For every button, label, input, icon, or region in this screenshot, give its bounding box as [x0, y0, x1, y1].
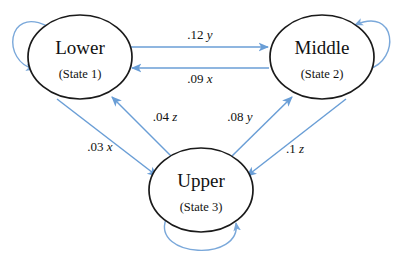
edge-label-upper-to-lower-var: z	[171, 109, 177, 124]
edge-lower-to-upper	[57, 99, 157, 176]
node-state1-subtitle: (State 1)	[59, 67, 102, 81]
edge-label-middle-to-lower-var: x	[206, 71, 213, 86]
edge-label-upper-to-middle-var: y	[245, 109, 253, 124]
edge-middle-to-upper	[247, 99, 346, 176]
diagram-canvas: Lower (State 1) Middle (State 2) Upper (…	[0, 0, 402, 261]
edge-label-middle-to-upper-var: z	[298, 141, 304, 156]
node-state3-subtitle: (State 3)	[180, 200, 223, 214]
edge-label-middle-to-lower: .09 x	[187, 71, 213, 86]
node-state2-title: Middle	[295, 37, 350, 58]
edge-upper-to-lower	[112, 97, 171, 156]
edge-label-middle-to-upper-coeff: .1	[286, 141, 296, 156]
node-state2-subtitle: (State 2)	[301, 67, 344, 81]
edge-label-middle-to-lower-coeff: .09	[187, 71, 203, 86]
edge-label-lower-to-upper-coeff: .03	[87, 139, 103, 154]
node-state3[interactable]: Upper (State 3)	[149, 148, 253, 232]
state-diagram: Lower (State 1) Middle (State 2) Upper (…	[0, 0, 402, 261]
node-state2[interactable]: Middle (State 2)	[270, 15, 374, 99]
edge-label-lower-to-middle-var: y	[205, 27, 213, 42]
edge-label-lower-to-upper-var: x	[106, 139, 113, 154]
edge-label-middle-to-upper: .1 z	[286, 141, 304, 156]
node-state1-title: Lower	[55, 37, 105, 58]
edge-label-upper-to-lower: .04 z	[153, 109, 178, 124]
node-state1[interactable]: Lower (State 1)	[28, 15, 132, 99]
edge-label-lower-to-middle: .12 y	[187, 27, 213, 42]
node-state3-title: Upper	[177, 170, 225, 191]
edge-label-lower-to-middle-coeff: .12	[187, 27, 203, 42]
edge-label-upper-to-middle: .08 y	[227, 109, 253, 124]
edge-label-lower-to-upper: .03 x	[87, 139, 113, 154]
edge-label-upper-to-middle-coeff: .08	[227, 109, 243, 124]
edge-label-upper-to-lower-coeff: .04	[153, 109, 170, 124]
